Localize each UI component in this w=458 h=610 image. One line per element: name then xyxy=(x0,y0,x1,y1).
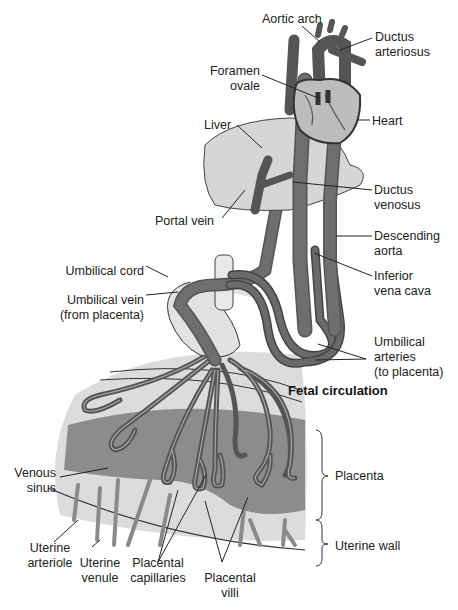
label-uterine-arteriole-line1: Uterine xyxy=(20,541,80,556)
label-descending-aorta-line2: aorta xyxy=(374,244,403,259)
label-ductus-venosus-line1: Ductus xyxy=(374,183,413,198)
label-ductus-arteriosus-line2: arteriosus xyxy=(375,45,430,60)
label-umbilical-cord: Umbilical cord xyxy=(40,264,144,279)
label-uterine-wall: Uterine wall xyxy=(335,539,400,554)
label-foramen-ovale-line2: ovale xyxy=(205,79,260,94)
label-uterine-arteriole-line2: arteriole xyxy=(20,556,80,571)
label-placenta: Placenta xyxy=(335,469,384,484)
heart xyxy=(294,79,360,143)
ductus-arteriosus xyxy=(332,50,362,62)
label-inferior-vena-cava-line2: vena cava xyxy=(374,284,431,299)
label-placental-villi-line2: villi xyxy=(200,586,260,601)
label-heart: Heart xyxy=(372,114,403,129)
label-foramen-ovale-line1: Foramen xyxy=(205,64,260,79)
label-ductus-venosus-line2: venosus xyxy=(374,198,421,213)
label-ductus-arteriosus-line1: Ductus xyxy=(375,30,414,45)
label-aortic-arch: Aortic arch xyxy=(262,12,322,27)
label-umbilical-vein-line2: (from placenta) xyxy=(40,308,144,323)
label-umbilical-arteries-line2: arteries xyxy=(374,350,416,365)
label-venous-sinus-line2: sinus xyxy=(4,481,56,496)
label-umbilical-vein-line1: Umbilical vein xyxy=(40,293,144,308)
label-placental-capillaries-line1: Placental xyxy=(126,556,190,571)
placenta-brace xyxy=(316,430,328,520)
label-inferior-vena-cava-line1: Inferior xyxy=(374,269,413,284)
label-umbilical-arteries-line1: Umbilical xyxy=(374,335,425,350)
label-venous-sinus-line1: Venous xyxy=(4,466,56,481)
label-uterine-venule-line2: venule xyxy=(76,571,124,586)
label-placental-capillaries-line2: capillaries xyxy=(126,571,190,586)
label-liver: Liver xyxy=(204,118,231,133)
label-placental-villi-line1: Placental xyxy=(200,571,260,586)
label-umbilical-arteries-line3: (to placenta) xyxy=(374,365,443,380)
label-portal-vein: Portal vein xyxy=(155,214,214,229)
uterine-wall-brace xyxy=(316,520,328,566)
label-descending-aorta-line1: Descending xyxy=(374,229,440,244)
label-uterine-venule-line1: Uterine xyxy=(76,556,124,571)
diagram-title: Fetal circulation xyxy=(288,383,388,398)
